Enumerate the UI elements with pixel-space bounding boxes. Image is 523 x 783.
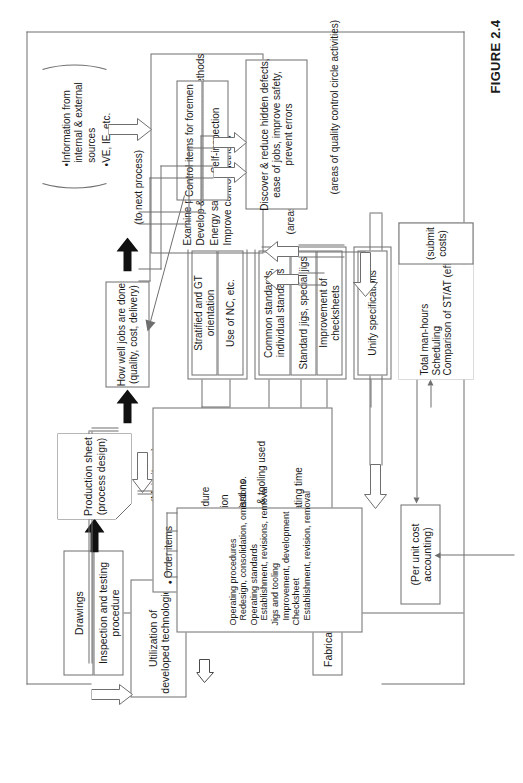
stub-tech-rail-2 bbox=[229, 379, 230, 407]
arrow-manhours-to-cost-line bbox=[416, 379, 417, 497]
stub-operating-1 bbox=[166, 576, 177, 577]
frame-left-lower-edge bbox=[381, 683, 464, 684]
stub-tech-rail-3 bbox=[268, 379, 269, 407]
stub-operating-3 bbox=[166, 530, 177, 531]
bullet-icon: ● bbox=[165, 578, 172, 584]
hollow-arrow-jobs-to-staff-2 bbox=[265, 240, 299, 262]
route-jobs-qc-a6 bbox=[138, 268, 161, 269]
black-arrow-to-next-process bbox=[116, 237, 138, 271]
route-jobs-qc-a1 bbox=[149, 177, 213, 178]
stub-operating-2 bbox=[166, 550, 177, 551]
main-item-row: ● Order items bbox=[162, 526, 174, 584]
hollow-arrow-info-to-staff bbox=[108, 117, 152, 141]
black-arrow-docs-to-production bbox=[84, 518, 104, 552]
hollow-arrow-to-production-sheet bbox=[131, 451, 153, 493]
stub-tech-rail-5 bbox=[326, 379, 327, 407]
stub-operating-4 bbox=[166, 512, 177, 513]
route-jobs-qc-a4 bbox=[160, 165, 161, 269]
qc-circle-caption: (areas of quality control circle activit… bbox=[316, 19, 351, 205]
node-inspection-testing: Inspection and testing procedure bbox=[93, 550, 123, 675]
stub-operating-rail bbox=[166, 512, 167, 577]
hollow-arrow-staff-to-tech bbox=[352, 251, 378, 297]
group-outline-tech-2 bbox=[254, 246, 346, 379]
pointer-hand-icon bbox=[196, 657, 218, 683]
arrow-items-to-manhours-tip bbox=[427, 379, 433, 385]
route-next-qc-b5 bbox=[138, 223, 189, 224]
hollow-arrow-jobs-to-staff-1 bbox=[265, 268, 299, 290]
stub-tech-1 bbox=[201, 406, 229, 407]
figure-canvas-rotated: Drawings Inspection and testing procedur… bbox=[0, 0, 523, 783]
node-qc-circle: Discover & reduce hidden defects, ease o… bbox=[245, 59, 307, 209]
node-production-sheet-label: Production sheet (process design) bbox=[81, 437, 106, 516]
node-operating-block: Operating procedures Redesign, consolida… bbox=[176, 507, 362, 632]
node-total-man-hours: Total man-hours Scheduling Comparison of… bbox=[398, 264, 473, 379]
feedback-line-top-drop2 bbox=[91, 427, 118, 428]
node-drawings-label: Drawings bbox=[72, 591, 84, 635]
stub-tech-rail-1 bbox=[201, 379, 202, 407]
arrow-items-to-cost-line bbox=[440, 554, 514, 555]
route-jobs-staff-3 bbox=[298, 256, 344, 257]
node-submit-costs: (submit costs) bbox=[398, 222, 473, 264]
feedback-line-top-drop bbox=[88, 430, 118, 431]
frame-right-edge bbox=[26, 31, 464, 32]
route-jobs-qc-a3 bbox=[149, 177, 150, 281]
node-production-sheet: Production sheet (process design) bbox=[57, 433, 131, 519]
main-item-label: Order items bbox=[162, 526, 173, 578]
arrow-manhours-to-cost-tip bbox=[413, 497, 419, 503]
route-jobs-qc-a2 bbox=[160, 165, 213, 166]
hollow-arrow-jobs-to-qc-2 bbox=[213, 131, 247, 153]
route-next-qc-b2 bbox=[200, 135, 214, 136]
frame-top-edge bbox=[26, 31, 27, 684]
stub-tech-rail-6 bbox=[370, 379, 371, 407]
route-jobs-qc-a5 bbox=[138, 280, 150, 281]
stub-tech-rail-4 bbox=[300, 379, 301, 407]
route-jobs-staff-2 bbox=[298, 272, 324, 273]
hollow-arrow-to-utilization bbox=[91, 683, 133, 705]
node-operating-block-label: Operating procedures Redesign, consolida… bbox=[227, 479, 312, 625]
hollow-arrow-qc-to-operating bbox=[363, 463, 387, 509]
hollow-arrow-jobs-to-qc-1 bbox=[213, 161, 247, 183]
black-arrow-items-to-jobs bbox=[116, 389, 138, 423]
diagram-canvas: Drawings Inspection and testing procedur… bbox=[0, 0, 523, 783]
line-qc-to-operating-c bbox=[369, 212, 382, 213]
route-jobs-staff-4 bbox=[298, 244, 344, 245]
route-jobs-staff-1 bbox=[298, 284, 324, 285]
arrow-items-to-cost-tip bbox=[434, 553, 440, 559]
arrow-items-to-manhours-line bbox=[430, 385, 431, 407]
figure-number: FIGURE 2.4 bbox=[487, 19, 502, 93]
route-next-qc-b6 bbox=[138, 211, 201, 212]
node-utilization-technologies-label: Utilization of developed technologies bbox=[146, 583, 171, 693]
frame-left-edge bbox=[26, 683, 91, 684]
group-outline-tech-1 bbox=[187, 246, 247, 379]
node-inspection-testing-label: Inspection and testing procedure bbox=[96, 551, 121, 674]
route-next-qc-b4 bbox=[200, 135, 201, 212]
